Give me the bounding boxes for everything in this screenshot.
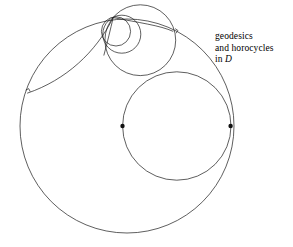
hyperbolic-geometry-figure: geodesics and horocycles in D bbox=[0, 0, 293, 247]
geodesic-top-to-left bbox=[27, 18, 113, 94]
disk-center-dot bbox=[120, 124, 124, 128]
large-horocycle-right bbox=[123, 72, 231, 180]
unit-disk-boundary-circle bbox=[20, 19, 234, 233]
medium-horocycle-top bbox=[105, 5, 176, 76]
small-horocycle-top-a bbox=[103, 15, 141, 53]
geodesic-top-to-upper-right bbox=[113, 18, 173, 32]
caption-in-prefix: in bbox=[215, 54, 225, 64]
caption-line-horocycles: and horocycles bbox=[215, 43, 274, 55]
caption-disk-symbol: D bbox=[225, 54, 232, 64]
figure-caption: geodesics and horocycles in D bbox=[215, 31, 274, 66]
right-tangency-dot bbox=[228, 124, 232, 128]
caption-line-in-d: in D bbox=[215, 54, 274, 66]
caption-line-geodesics: geodesics bbox=[215, 31, 274, 43]
